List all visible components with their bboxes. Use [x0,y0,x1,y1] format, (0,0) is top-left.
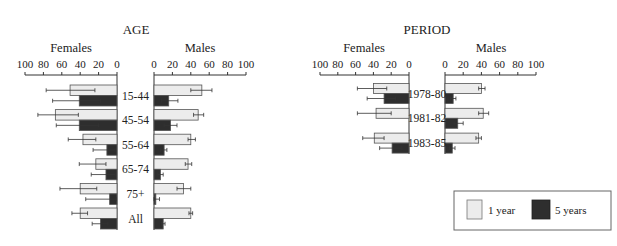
x-tick-label: 60 [494,58,506,70]
x-tick-label: 40 [75,58,87,70]
x-tick-label: 40 [476,58,488,70]
male-1-year-bar [154,110,198,121]
category-label: 1981-82 [408,112,447,124]
x-tick-label: 20 [386,58,398,70]
male-1-year-bar [154,208,191,219]
x-tick-label: 60 [56,58,68,70]
category-label: 55-64 [122,139,149,151]
x-tick-label: 80 [332,58,344,70]
x-tick-label: 80 [512,58,524,70]
category-label: 1983-85 [408,137,447,149]
period-females-label: Females [343,41,385,55]
male-1-year-bar [445,133,479,143]
period-panel-title: PERIOD [404,22,451,37]
legend-swatch-1-year [467,200,482,219]
x-tick-label: 40 [368,58,380,70]
category-label: 65-74 [122,163,149,175]
figure: AGE Females Males 0020204040606080801001… [0,0,617,246]
legend-label-1-year: 1 year [488,204,516,216]
category-label: 45-54 [122,114,149,126]
chart-canvas: AGE Females Males 0020204040606080801001… [0,0,617,246]
x-tick-label: 60 [350,58,362,70]
x-tick-label: 100 [17,58,34,70]
age-bars: 00202040406060808010010015-4445-5455-646… [17,58,255,230]
x-tick-label: 40 [185,58,197,70]
x-tick-label: 0 [114,58,120,70]
x-tick-label: 100 [528,58,545,70]
male-1-year-bar [154,159,188,170]
legend-swatch-5-years [532,200,550,219]
period-panel: PERIOD Females Males 0020204040606080801… [312,22,545,154]
x-tick-label: 80 [38,58,50,70]
x-tick-label: 20 [93,58,105,70]
age-females-label: Females [50,41,92,55]
x-tick-label: 80 [222,58,234,70]
x-tick-label: 100 [312,58,329,70]
category-label: 1978-80 [408,88,447,100]
period-males-label: Males [476,41,507,55]
x-tick-label: 0 [151,58,157,70]
age-panel: AGE Females Males 0020204040606080801001… [17,22,255,230]
period-bars: 0020204040606080801001001978-801981-8219… [312,58,545,154]
x-tick-label: 20 [458,58,470,70]
male-1-year-bar [445,84,481,94]
x-tick-label: 0 [442,58,448,70]
x-tick-label: 0 [406,58,412,70]
age-panel-title: AGE [123,22,150,37]
category-label: 75+ [127,188,145,200]
category-label: 15-44 [122,90,149,102]
category-label: All [128,213,143,225]
legend-label-5-years: 5 years [555,204,586,216]
x-tick-label: 100 [238,58,255,70]
x-tick-label: 20 [167,58,179,70]
age-males-label: Males [185,41,216,55]
male-1-year-bar [445,108,483,118]
legend: 1 year 5 years [454,191,611,230]
male-1-year-bar [154,134,191,145]
x-tick-label: 60 [204,58,216,70]
